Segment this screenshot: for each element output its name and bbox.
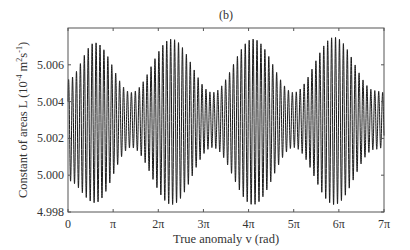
x-tick-label: 0 bbox=[65, 217, 71, 231]
x-tick-label: 2π bbox=[152, 217, 164, 231]
y-tick-label: 5.006 bbox=[37, 58, 64, 72]
y-tick-label: 5.000 bbox=[37, 168, 64, 182]
y-axis-label-unit: m bbox=[16, 61, 30, 74]
y-tick-label: 4.998 bbox=[37, 205, 64, 219]
x-tick-label: 4π bbox=[243, 217, 255, 231]
x-tick-label: 7π bbox=[378, 217, 390, 231]
chart-title: (b) bbox=[219, 8, 233, 22]
series-line bbox=[68, 37, 384, 204]
y-tick-label: 5.004 bbox=[37, 95, 64, 109]
x-axis-label: True anomaly v (rad) bbox=[173, 232, 279, 246]
y-axis-label: Constant of areas L (10-4 m2s-1) bbox=[15, 42, 30, 198]
y-axis-label-exp: -4 bbox=[15, 75, 24, 82]
y-axis-label-end: ) bbox=[16, 42, 30, 46]
chart: (b) 0π2π3π4π5π6π7π 4.9985.0005.0025.0045… bbox=[0, 0, 410, 250]
y-tick-label: 5.002 bbox=[37, 131, 64, 145]
y-axis-label-main: Constant of areas L (10 bbox=[16, 81, 30, 198]
x-tick-label: π bbox=[110, 217, 116, 231]
x-tick-label: 3π bbox=[197, 217, 209, 231]
data-line bbox=[68, 37, 384, 204]
y-axis-label-exp3: -1 bbox=[15, 46, 24, 53]
x-tick-label: 6π bbox=[333, 217, 345, 231]
x-tick-label: 5π bbox=[288, 217, 300, 231]
